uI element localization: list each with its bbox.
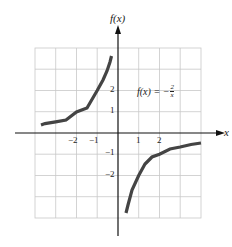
y-tick-m2: −2 <box>105 170 115 179</box>
eq-lhs: f(x) = − <box>137 86 169 97</box>
curves <box>41 56 201 213</box>
y-tick-2: 2 <box>110 85 115 94</box>
y-tick-1: 1 <box>110 106 115 115</box>
y-tick-m1: −1 <box>105 148 115 157</box>
right-branch <box>126 143 201 213</box>
eq-den: x <box>171 92 174 99</box>
y-axis-label: f(x) <box>110 13 125 24</box>
x-tick-m1: −1 <box>89 136 99 145</box>
eq-fraction: 2 x <box>170 84 174 99</box>
x-axis-label: x <box>224 127 229 138</box>
axes <box>15 30 220 236</box>
x-tick-1: 1 <box>136 136 141 145</box>
function-label: f(x) = − 2 x <box>137 84 174 99</box>
chart-plot <box>0 0 232 247</box>
x-tick-2: 2 <box>157 136 162 145</box>
x-tick-m2: −2 <box>68 136 78 145</box>
y-axis-arrow-icon <box>115 25 121 34</box>
